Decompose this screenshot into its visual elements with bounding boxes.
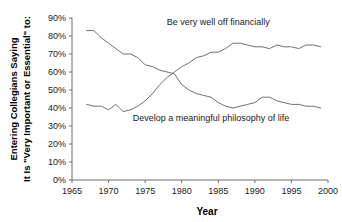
y-tick-label: 70% [48,49,66,59]
series-lines [87,31,321,112]
x-axis-ticks: 19651970197519801985199019952000 [62,180,338,196]
series-label: Be very well off financially [167,17,270,27]
y-tick-label: 40% [48,103,66,113]
y-axis-ticks: 0%10%20%30%40%50%60%70%80%90% [48,13,72,185]
y-tick-label: 80% [48,31,66,41]
line-chart: 0%10%20%30%40%50%60%70%80%90% 1965197019… [0,0,342,222]
x-tick-label: 1965 [62,186,82,196]
x-tick-label: 2000 [318,186,338,196]
chart-container: 0%10%20%30%40%50%60%70%80%90% 1965197019… [0,0,342,222]
y-axis-title-line: Entering Collegians Saying [8,37,19,160]
x-tick-label: 1970 [99,186,119,196]
y-tick-label: 90% [48,13,66,23]
y-tick-label: 60% [48,67,66,77]
y-tick-label: 50% [48,85,66,95]
x-tick-label: 1975 [135,186,155,196]
x-tick-label: 1980 [172,186,192,196]
x-axis-title: Year [196,206,217,217]
series-label: Develop a meaningful philosophy of life [133,113,290,123]
y-axis-title-line: It Is "Very Important or Essential" to: [21,16,32,182]
y-axis-title: Entering Collegians SayingIt Is "Very Im… [8,16,32,182]
y-tick-label: 10% [48,157,66,167]
x-tick-label: 1990 [245,186,265,196]
y-tick-label: 30% [48,121,66,131]
y-tick-label: 0% [53,175,66,185]
series-annotations: Be very well off financiallyDevelop a me… [133,17,290,122]
series-line [87,31,321,108]
x-tick-label: 1995 [281,186,301,196]
y-tick-label: 20% [48,139,66,149]
x-tick-label: 1985 [208,186,228,196]
